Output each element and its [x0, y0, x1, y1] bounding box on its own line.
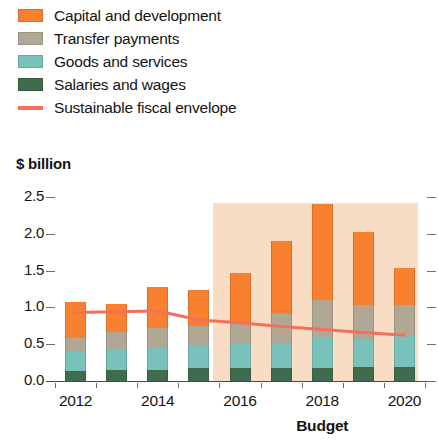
- x-axis-tick-mark: [343, 383, 344, 388]
- x-axis-tick-mark: [178, 383, 179, 388]
- y-axis-tick-mark-right: [427, 381, 436, 382]
- x-axis-tick-mark: [55, 383, 56, 388]
- y-axis-tick-label: 2.5: [4, 187, 44, 204]
- y-axis-tick-mark: [46, 234, 55, 235]
- sustainable-fiscal-envelope-line: [0, 0, 438, 441]
- y-axis-tick-label: 0.5: [4, 334, 44, 351]
- y-axis-tick-mark-right: [427, 197, 436, 198]
- x-axis-baseline: [47, 381, 427, 382]
- y-axis-tick-mark-right: [427, 344, 436, 345]
- y-axis-tick-mark: [46, 344, 55, 345]
- x-axis-tick-mark: [425, 383, 426, 388]
- y-axis-tick-label: 1.5: [4, 261, 44, 278]
- x-axis-tick-mark: [137, 383, 138, 388]
- y-axis-tick-mark-right: [427, 271, 436, 272]
- x-axis-tick-label-2016: 2016: [210, 392, 270, 410]
- x-axis-tick-mark: [302, 383, 303, 388]
- x-axis-tick-label-2012: 2012: [46, 392, 106, 410]
- y-axis-tick-label: 0.0: [4, 371, 44, 388]
- x-axis-tick-mark: [384, 383, 385, 388]
- x-axis-tick-mark: [96, 383, 97, 388]
- x-axis-tick-label-2018: 2018: [292, 392, 352, 410]
- x-axis-tick-label-2014: 2014: [128, 392, 188, 410]
- x-axis-title: Budget: [277, 417, 367, 435]
- x-axis-tick-mark: [219, 383, 220, 388]
- y-axis-tick-mark: [46, 271, 55, 272]
- x-axis-tick-mark: [261, 383, 262, 388]
- plot-area: 2.52.01.51.00.50.0 20122014201620182020 …: [0, 0, 438, 441]
- envelope-polyline: [76, 311, 405, 335]
- x-axis-tick-label-2020: 2020: [374, 392, 434, 410]
- y-axis-tick-mark-right: [427, 234, 436, 235]
- y-axis-tick-mark: [46, 197, 55, 198]
- y-axis-tick-label: 2.0: [4, 224, 44, 241]
- y-axis-tick-label: 1.0: [4, 297, 44, 314]
- figure-root: Capital and development Transfer payment…: [0, 0, 438, 441]
- y-axis-tick-mark: [46, 307, 55, 308]
- y-axis-tick-mark-right: [427, 307, 436, 308]
